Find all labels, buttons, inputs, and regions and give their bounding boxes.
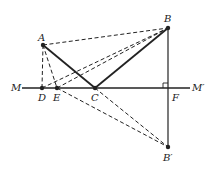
segment-cb-prime-dashed (95, 88, 168, 147)
point-c (93, 86, 97, 90)
label-b-prime: B′ (162, 152, 173, 163)
label-m-prime: M′ (191, 82, 205, 93)
label-f: F (171, 92, 180, 103)
point-b (166, 26, 170, 30)
geometry-diagram: A B M M′ D E C F B′ (0, 0, 213, 175)
label-d: D (37, 92, 46, 103)
label-b: B (163, 13, 171, 24)
right-angle-marker (163, 83, 168, 88)
segment-cb (95, 28, 168, 88)
label-m: M (10, 82, 22, 93)
point-e (55, 86, 59, 90)
point-d (40, 86, 44, 90)
point-a (41, 43, 45, 47)
label-e: E (52, 92, 61, 103)
segment-eb-dashed (57, 28, 168, 88)
label-c: C (91, 92, 99, 103)
label-a: A (37, 32, 45, 43)
segment-ad-dashed (42, 45, 43, 88)
segment-eb-prime-dashed (57, 88, 168, 147)
point-b-prime (166, 145, 170, 149)
